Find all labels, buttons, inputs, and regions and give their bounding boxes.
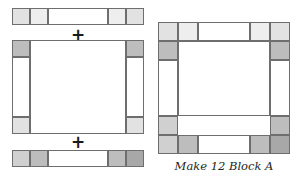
patch-block-lower-left-corner [158,116,178,135]
patch-block-top-right-outer [270,22,290,41]
patch-bottom-strip-4 [108,150,126,167]
plus-operator-bottom: + [70,134,86,150]
patch-center-right-top-square [126,40,144,57]
patch-center-left-bottom-square [12,117,30,134]
block-caption: Make 12 Block A [158,159,290,173]
patch-block-upper-left-corner [158,41,178,60]
patch-block-upper-right-corner [270,41,290,60]
patch-block-bottom-sashing [198,135,250,154]
patch-center-left-sashing [12,57,30,117]
patch-bottom-strip-5 [126,150,144,167]
patch-block-bottom-left-inner [178,135,198,154]
patch-center-square [30,40,126,134]
patch-block-left-sashing [158,60,178,116]
patch-bottom-strip-2 [30,150,48,167]
patch-center-left-top-square [12,40,30,57]
patch-bottom-strip-1 [12,150,30,167]
patch-block-top-sashing [198,22,250,41]
patch-top-strip-5 [126,8,144,25]
patch-block-center-square [178,41,270,116]
patch-block-top-right-inner [250,22,270,41]
diagram-canvas: + + [0,0,297,184]
patch-block-lower-right-corner [270,116,290,135]
block-assembly-diagram: + + [0,0,150,184]
patch-bottom-strip-center [48,150,108,167]
patch-center-right-bottom-square [126,117,144,134]
patch-center-right-sashing [126,57,144,117]
patch-block-top-left-outer [158,22,178,41]
patch-block-top-left-inner [178,22,198,41]
patch-block-bottom-right-outer [270,135,290,154]
patch-block-bottom-right-inner [250,135,270,154]
finished-block-a [158,22,290,154]
patch-top-strip-2 [30,8,48,25]
patch-top-strip-center [48,8,108,25]
patch-block-bottom-left-outer [158,135,178,154]
patch-top-strip-4 [108,8,126,25]
patch-top-strip-1 [12,8,30,25]
patch-block-right-sashing [270,60,290,116]
